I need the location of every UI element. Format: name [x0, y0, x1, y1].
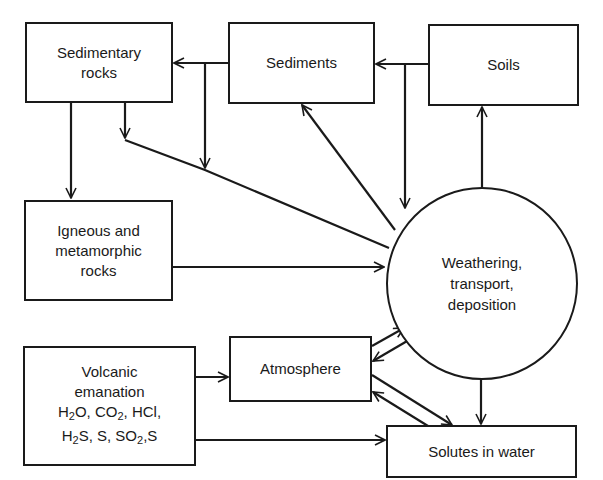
sedimentary-rocks-label-line1: Sedimentary — [57, 43, 141, 63]
weathering-label-line3: deposition — [442, 294, 523, 315]
igneous-label-line3: rocks — [55, 261, 142, 281]
node-atmosphere: Atmosphere — [229, 336, 372, 402]
node-sedimentary-rocks: Sedimentary rocks — [25, 22, 173, 103]
sediments-label: Sediments — [266, 53, 337, 73]
node-weathering-transport-deposition: Weathering, transport, deposition — [386, 187, 578, 380]
solutes-label: Solutes in water — [428, 442, 535, 462]
weathering-label-line1: Weathering, — [442, 252, 523, 273]
igneous-label-line1: Igneous and — [55, 221, 142, 241]
arrow-weathering-to-sediments — [302, 105, 395, 230]
volcanic-label-line1: Volcanic — [58, 362, 161, 382]
soils-label: Soils — [487, 55, 520, 75]
sedimentary-rocks-label-line2: rocks — [57, 63, 141, 83]
weathering-label-line2: transport, — [442, 273, 523, 294]
node-volcanic-emanation: Volcanic emanation H2O, CO2, HCl, H2S, S… — [23, 346, 196, 466]
node-igneous-metamorphic-rocks: Igneous and metamorphic rocks — [24, 200, 173, 301]
atmosphere-label: Atmosphere — [260, 359, 341, 379]
arrow-solutes-to-atmosphere — [373, 392, 428, 426]
volcanic-gases-row1: H2O, CO2, HCl, — [58, 402, 161, 426]
node-soils: Soils — [428, 24, 579, 106]
igneous-label-line2: metamorphic — [55, 241, 142, 261]
volcanic-gases-row2: H2S, S, SO2,S — [58, 426, 161, 450]
node-solutes-in-water: Solutes in water — [386, 425, 577, 478]
volcanic-label-line2: emanation — [58, 382, 161, 402]
node-sediments: Sediments — [228, 22, 375, 104]
